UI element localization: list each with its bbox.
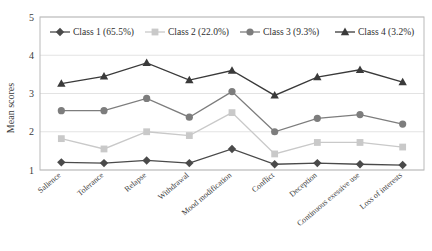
data-point-circle <box>246 28 253 35</box>
legend-item-3[interactable]: Class 3 (9.3%) <box>240 27 319 38</box>
y-tick-label: 3 <box>29 88 34 99</box>
data-point-diamond <box>313 159 321 167</box>
data-point-circle <box>228 88 235 95</box>
data-point-square <box>314 139 321 146</box>
legend-label: Class 3 (9.3%) <box>263 27 319 38</box>
y-tick-label: 2 <box>29 126 34 137</box>
data-point-square <box>58 135 65 142</box>
x-tick-label: Deception <box>288 171 319 199</box>
data-point-triangle <box>228 66 236 74</box>
data-point-circle <box>399 121 406 128</box>
data-point-diamond <box>270 160 278 168</box>
data-point-square <box>357 139 364 146</box>
legend-item-4[interactable]: Class 4 (3.2%) <box>335 27 414 38</box>
y-tick-label: 1 <box>29 165 34 176</box>
series-lines <box>57 59 407 170</box>
chart-legend: Class 1 (65.5%)Class 2 (22.0%)Class 3 (9… <box>50 27 414 38</box>
x-tick-label: Loss of interests <box>358 171 404 212</box>
data-point-square <box>143 128 150 135</box>
data-point-diamond <box>142 156 150 164</box>
data-point-circle <box>186 114 193 121</box>
data-point-square <box>152 29 159 36</box>
data-point-circle <box>271 128 278 135</box>
data-point-diamond <box>56 28 64 36</box>
data-point-circle <box>314 115 321 122</box>
x-tick-label: Relapse <box>123 170 149 193</box>
series-1 <box>57 145 407 169</box>
chart-container: 12345 Mean scores SalienceToleranceRelap… <box>0 0 432 251</box>
data-point-square <box>399 144 406 151</box>
data-point-circle <box>356 111 363 118</box>
x-tick-label: Tolerance <box>75 170 105 197</box>
y-axis-title: Mean scores <box>5 83 16 133</box>
line-chart: 12345 Mean scores SalienceToleranceRelap… <box>0 0 432 251</box>
data-point-square <box>186 132 193 139</box>
legend-item-2[interactable]: Class 2 (22.0%) <box>145 27 229 38</box>
data-point-circle <box>58 107 65 114</box>
data-point-diamond <box>398 161 406 169</box>
legend-item-1[interactable]: Class 1 (65.5%) <box>50 27 134 38</box>
y-tick-label: 5 <box>29 12 34 23</box>
data-point-square <box>229 109 236 116</box>
y-axis-ticks: 12345 <box>29 12 34 176</box>
x-tick-label: Withdrawal <box>156 170 191 201</box>
data-point-diamond <box>57 158 65 166</box>
data-point-square <box>271 151 278 158</box>
legend-label: Class 2 (22.0%) <box>168 27 229 38</box>
x-tick-label: Conflict <box>250 170 276 194</box>
legend-label: Class 1 (65.5%) <box>73 27 134 38</box>
x-tick-label: Salience <box>36 170 63 195</box>
data-point-circle <box>100 107 107 114</box>
data-point-triangle <box>356 65 364 73</box>
data-point-triangle <box>142 59 150 67</box>
legend-label: Class 4 (3.2%) <box>358 27 414 38</box>
data-point-circle <box>143 95 150 102</box>
data-point-diamond <box>356 160 364 168</box>
data-point-diamond <box>185 159 193 167</box>
data-point-diamond <box>228 145 236 153</box>
y-tick-label: 4 <box>29 50 34 61</box>
x-axis-ticks: SalienceToleranceRelapseWithdrawalMood m… <box>36 170 404 228</box>
data-point-square <box>101 146 108 153</box>
data-point-diamond <box>100 159 108 167</box>
